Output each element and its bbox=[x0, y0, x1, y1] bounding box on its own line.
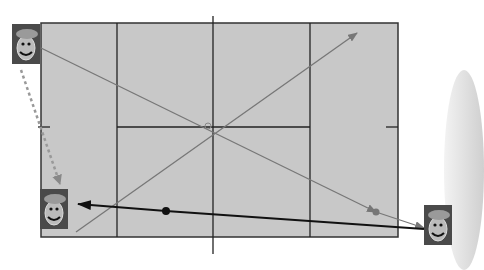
smiley-hat-icon bbox=[424, 205, 452, 245]
smiley-hat-icon bbox=[40, 189, 68, 229]
grey-dot-marker bbox=[373, 209, 380, 216]
player-tile-top-left[interactable] bbox=[12, 24, 40, 64]
black-dot-marker bbox=[162, 207, 170, 215]
player-tile-bottom-right[interactable] bbox=[424, 205, 452, 245]
smiley-hat-icon bbox=[12, 24, 40, 64]
player-tile-bottom-left[interactable] bbox=[40, 189, 68, 229]
